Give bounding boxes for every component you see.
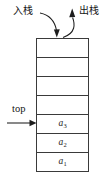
stack-cell-a2: a2 — [37, 134, 88, 153]
stack-cell-subscript: 2 — [64, 141, 67, 148]
stack-cell-base: a — [59, 118, 64, 128]
stack-cell-subscript: 3 — [64, 122, 67, 129]
stack-cell-empty-7 — [37, 39, 88, 58]
push-arrow — [40, 13, 60, 38]
stack-cell-a3: a3 — [37, 115, 88, 134]
stack-cell-empty-5 — [37, 77, 88, 96]
stack-cell-value: a1 — [59, 157, 67, 167]
stack-cell-base: a — [59, 156, 64, 166]
stack-cell-base: a — [59, 137, 64, 147]
pop-arrow — [63, 9, 75, 38]
stack-cell-value: a2 — [59, 138, 67, 148]
stack-cell-a1: a1 — [37, 153, 88, 171]
stack-cell-value: a3 — [59, 119, 67, 129]
top-pointer-label: top — [12, 104, 25, 115]
pop-label: 出栈 — [79, 6, 99, 16]
stack-container: a3 a2 a1 — [36, 38, 89, 172]
stack-cell-empty-4 — [37, 96, 88, 115]
stack-cell-subscript: 1 — [64, 160, 67, 167]
stack-cell-empty-6 — [37, 58, 88, 77]
push-label: 入栈 — [13, 6, 33, 16]
top-pointer-arrow — [7, 120, 37, 126]
diagram-canvas: 入栈 出栈 top a3 a2 a1 — [0, 0, 108, 182]
